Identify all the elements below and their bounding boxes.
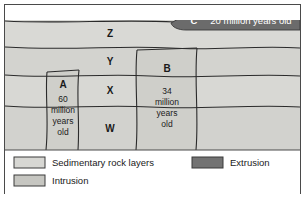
rock-block	[5, 12, 300, 150]
legend-swatch-extrusion	[192, 157, 223, 168]
legend-label-extrusion: Extrusion	[230, 157, 270, 168]
legend-swatch-sedimentary	[14, 157, 45, 168]
geologic-cross-section-figure: Z Y X W A 60 million years old B 34 mill…	[0, 0, 305, 198]
cross-section-diagram: Z Y X W A 60 million years old B 34 mill…	[0, 0, 305, 198]
intrusion-label-a: A	[59, 79, 66, 90]
extrusion-label-c: C	[191, 15, 198, 26]
legend-swatch-intrusion	[14, 175, 45, 186]
intrusion-a-age-line-2: million	[51, 105, 75, 115]
intrusion-a-age-line-4: old	[57, 127, 69, 137]
intrusion-b-age-line-1: 34	[162, 86, 172, 96]
extrusion-age-text: 20 million years old	[210, 15, 291, 26]
layer-label-x: X	[107, 85, 114, 96]
legend: Sedimentary rock layers Extrusion Intrus…	[5, 150, 300, 194]
legend-label-sedimentary: Sedimentary rock layers	[52, 157, 154, 168]
layer-label-w: W	[105, 123, 115, 134]
legend-label-intrusion: Intrusion	[52, 175, 88, 186]
layer-label-y: Y	[107, 56, 114, 67]
intrusion-b-age-line-2: million	[155, 97, 179, 107]
intrusion-b-age-line-4: old	[161, 119, 173, 129]
layer-label-z: Z	[107, 28, 113, 39]
intrusion-label-b: B	[163, 63, 170, 74]
intrusion-a-age-line-3: years	[53, 116, 74, 126]
intrusion-a-age-line-1: 60	[58, 94, 68, 104]
intrusion-b-age-line-3: years	[157, 108, 178, 118]
